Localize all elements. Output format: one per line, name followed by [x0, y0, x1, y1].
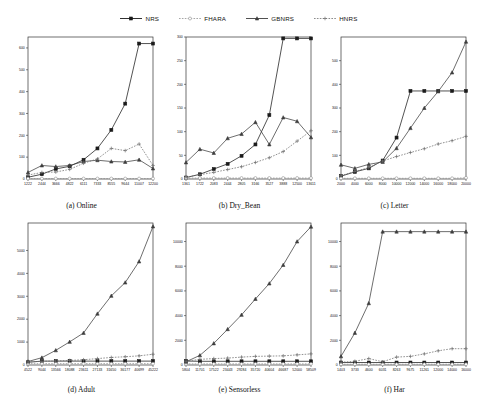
svg-text:2000: 2000 [17, 317, 25, 321]
datapoint-fhara [96, 362, 99, 365]
datapoint-fhara [212, 177, 215, 180]
plot-area-c: 0100200300400500200040006000800010000120… [315, 27, 474, 203]
svg-text:4822: 4822 [66, 182, 74, 186]
series-line-gbnrs [341, 232, 466, 357]
svg-text:100: 100 [19, 155, 25, 159]
svg-text:1361: 1361 [182, 182, 190, 186]
datapoint-fhara [310, 362, 313, 365]
svg-text:52000: 52000 [292, 368, 302, 372]
datapoint-hnrs [450, 139, 454, 143]
datapoint-nrs [152, 42, 155, 45]
datapoint-hnrs [240, 165, 244, 169]
datapoint-fhara [381, 177, 384, 180]
svg-text:31650: 31650 [106, 368, 116, 372]
datapoint-fhara [96, 177, 99, 180]
subplot-caption-c: (c) Letter [315, 201, 474, 210]
svg-text:1722: 1722 [196, 182, 204, 186]
datapoint-gbnrs [54, 349, 57, 352]
datapoint-fhara [68, 177, 71, 180]
series-line-gbnrs [28, 160, 153, 173]
svg-text:14000: 14000 [447, 368, 457, 372]
datapoint-fhara [367, 363, 370, 366]
datapoint-hnrs [110, 356, 114, 360]
svg-text:50: 50 [179, 154, 183, 158]
datapoint-gbnrs [40, 356, 43, 359]
datapoint-nrs [451, 89, 454, 92]
svg-text:23611: 23611 [79, 368, 89, 372]
subplot-e: 0200040006000800010000580411701175222344… [160, 213, 319, 408]
datapoint-hnrs [367, 357, 371, 361]
svg-text:11701: 11701 [195, 368, 205, 372]
datapoint-hnrs [309, 352, 313, 356]
svg-text:27133: 27133 [93, 368, 103, 372]
datapoint-fhara [254, 362, 257, 365]
datapoint-fhara [226, 177, 229, 180]
svg-text:17522: 17522 [209, 368, 219, 372]
legend-item-nrs: NRS [120, 14, 159, 23]
svg-text:9644: 9644 [121, 182, 129, 186]
svg-text:29284: 29284 [237, 368, 247, 372]
svg-text:2000: 2000 [330, 339, 338, 343]
svg-text:500: 500 [19, 68, 25, 72]
svg-text:20000: 20000 [461, 182, 471, 186]
datapoint-fhara [124, 177, 127, 180]
datapoint-nrs [212, 168, 215, 171]
datapoint-fhara [138, 177, 141, 180]
svg-text:400: 400 [332, 83, 338, 87]
datapoint-fhara [110, 177, 113, 180]
plot-area-b: 0501001502002503001361172220832444280531… [160, 27, 319, 203]
datapoint-fhara [409, 363, 412, 366]
svg-text:200: 200 [332, 130, 338, 134]
series-line-hnrs [341, 136, 466, 175]
plot-area-f: 0200040006000800010000140337334600603182… [315, 213, 474, 389]
datapoint-fhara [54, 177, 57, 180]
svg-text:6031: 6031 [379, 368, 387, 372]
svg-text:4600: 4600 [365, 368, 373, 372]
svg-text:3166: 3166 [252, 182, 260, 186]
series-line-gbnrs [186, 227, 311, 362]
datapoint-hnrs [464, 135, 468, 139]
datapoint-fhara [240, 177, 243, 180]
datapoint-fhara [437, 177, 440, 180]
datapoint-fhara [27, 177, 30, 180]
datapoint-fhara [254, 177, 257, 180]
datapoint-fhara [268, 362, 271, 365]
svg-text:16000: 16000 [461, 368, 471, 372]
svg-text:200: 200 [19, 134, 25, 138]
svg-text:13566: 13566 [51, 368, 61, 372]
datapoint-hnrs [295, 353, 299, 357]
datapoint-nrs [296, 37, 299, 40]
svg-text:40699: 40699 [134, 368, 144, 372]
datapoint-fhara [395, 363, 398, 366]
plot-area-e: 0200040006000800010000580411701175222344… [160, 213, 319, 389]
subplot-c: 0100200300400500200040006000800010000120… [315, 27, 474, 222]
datapoint-hnrs [395, 155, 399, 159]
svg-text:2083: 2083 [210, 182, 218, 186]
svg-text:11261: 11261 [420, 368, 430, 372]
svg-text:3733: 3733 [351, 368, 359, 372]
datapoint-fhara [451, 177, 454, 180]
datapoint-hnrs [226, 356, 230, 360]
legend-item-fhara: FHARA [179, 14, 226, 23]
datapoint-gbnrs [282, 116, 285, 119]
datapoint-hnrs [423, 147, 427, 151]
datapoint-hnrs [281, 354, 285, 358]
svg-text:100: 100 [332, 154, 338, 158]
svg-text:46687: 46687 [278, 368, 288, 372]
datapoint-nrs [226, 162, 229, 165]
svg-text:2444: 2444 [224, 182, 232, 186]
datapoint-hnrs [226, 168, 230, 172]
svg-text:0: 0 [23, 363, 25, 367]
datapoint-fhara [296, 362, 299, 365]
svg-text:3527: 3527 [265, 182, 273, 186]
datapoint-fhara [437, 363, 440, 366]
svg-text:300: 300 [332, 106, 338, 110]
svg-text:6000: 6000 [365, 182, 373, 186]
subplot-caption-d: (d) Adult [2, 385, 161, 394]
series-line-nrs [341, 91, 466, 176]
svg-text:200: 200 [177, 83, 183, 87]
datapoint-hnrs [409, 151, 413, 155]
datapoint-hnrs [240, 355, 244, 359]
datapoint-hnrs [151, 352, 155, 356]
svg-text:3888: 3888 [279, 182, 287, 186]
